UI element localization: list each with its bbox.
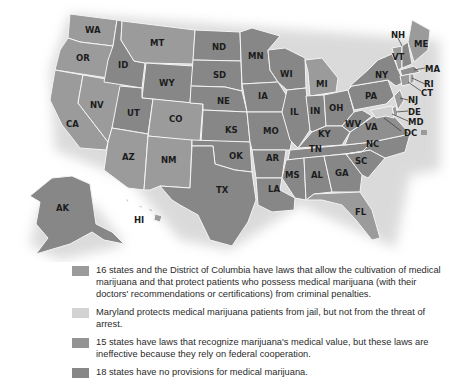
label-il: IL <box>290 107 299 117</box>
label-or: OR <box>76 53 90 63</box>
legend-item-maryland: Maryland protects medical marijuana pati… <box>72 306 442 330</box>
legend-item-none: 18 states have no provisions for medical… <box>72 366 442 378</box>
label-ma: MA <box>425 64 440 74</box>
label-al: AL <box>311 170 324 180</box>
label-va: VA <box>365 122 378 132</box>
label-ne: NE <box>217 96 230 106</box>
label-ca: CA <box>66 119 79 129</box>
label-md: MD <box>408 117 424 127</box>
label-wa: WA <box>85 25 101 35</box>
label-hi: HI <box>134 215 144 225</box>
label-tn: TN <box>309 144 322 154</box>
label-ar: AR <box>266 153 280 163</box>
label-de: DE <box>408 107 421 117</box>
label-fl: FL <box>355 207 367 217</box>
label-ok: OK <box>229 151 243 161</box>
legend-item-legal: 16 states and the District of Columbia h… <box>72 264 442 300</box>
label-nj: NJ <box>408 95 418 105</box>
legend-swatch-legal <box>72 266 89 276</box>
legend: 16 states and the District of Columbia h… <box>72 264 442 382</box>
label-wy: WY <box>159 78 175 88</box>
label-wv: WV <box>345 119 361 129</box>
label-az: AZ <box>122 152 135 162</box>
label-oh: OH <box>329 103 343 113</box>
label-ga: GA <box>335 168 349 178</box>
dc-swatch <box>421 130 427 135</box>
label-mo: MO <box>263 126 279 136</box>
legend-text-maryland: Maryland protects medical marijuana pati… <box>96 306 442 330</box>
state-ct <box>400 74 410 86</box>
label-ms: MS <box>285 170 300 180</box>
label-nh: NH <box>391 30 405 40</box>
legend-text-none: 18 states have no provisions for medical… <box>96 366 308 378</box>
label-nc: NC <box>366 139 379 149</box>
label-sc: SC <box>355 156 367 166</box>
label-ky: KY <box>318 129 332 139</box>
legend-swatch-maryland <box>72 308 89 318</box>
label-mt: MT <box>150 38 164 48</box>
label-dc: DC <box>404 128 417 138</box>
label-wi: WI <box>280 69 293 79</box>
label-nd: ND <box>212 42 226 52</box>
label-nv: NV <box>90 100 104 110</box>
label-mi: MI <box>316 79 328 89</box>
label-ct: CT <box>421 88 433 98</box>
label-mn: MN <box>248 51 264 61</box>
label-pa: PA <box>365 91 377 101</box>
label-ia: IA <box>258 91 268 101</box>
label-co: CO <box>169 114 182 124</box>
label-me: ME <box>414 39 428 49</box>
label-ak: AK <box>56 203 70 213</box>
label-ut: UT <box>127 108 140 118</box>
label-ny: NY <box>375 70 389 80</box>
label-la: LA <box>268 184 280 194</box>
legend-item-ineffective: 15 states have laws that recognize marij… <box>72 336 442 360</box>
legend-text-ineffective: 15 states have laws that recognize marij… <box>96 336 442 360</box>
label-id: ID <box>118 60 128 70</box>
legend-swatch-ineffective <box>72 338 89 348</box>
legend-swatch-none <box>72 368 89 378</box>
label-in: IN <box>310 106 320 116</box>
us-map: WA OR CA NV ID MT WY UT CO AZ NM ND SD N… <box>0 0 449 262</box>
label-ks: KS <box>225 125 238 135</box>
label-nm: NM <box>161 155 177 165</box>
label-vt: VT <box>392 52 405 62</box>
label-sd: SD <box>213 70 226 80</box>
legend-text-legal: 16 states and the District of Columbia h… <box>96 264 442 300</box>
label-tx: TX <box>216 185 229 195</box>
